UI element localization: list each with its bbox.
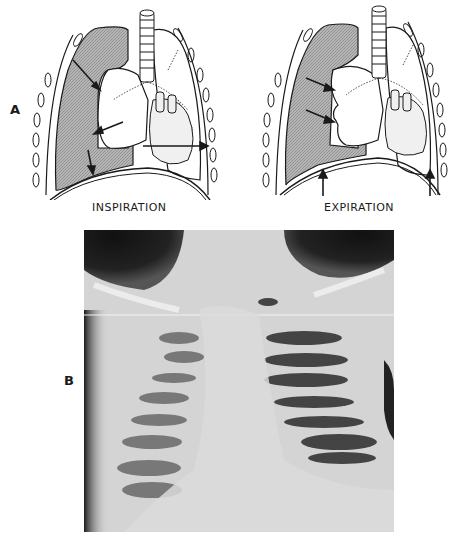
trachea	[372, 6, 386, 78]
expiration-diagram	[258, 0, 458, 200]
expiration-caption: EXPIRATION	[324, 201, 394, 214]
left-edge-shadow	[84, 310, 108, 532]
panel-a-label: A	[10, 102, 20, 117]
trachea	[140, 10, 154, 82]
inspiration-caption: INSPIRATION	[92, 201, 167, 214]
inspiration-diagram	[28, 0, 228, 200]
panel-b-label: B	[64, 373, 74, 388]
chest-xray-image	[84, 230, 394, 532]
